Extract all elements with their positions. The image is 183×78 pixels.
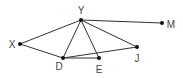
edge-x-d: [20, 44, 63, 58]
labels: YXDEJM: [9, 5, 176, 75]
node-x: [18, 42, 22, 46]
node-y: [79, 18, 83, 22]
node-label-x: X: [9, 39, 16, 50]
node-j: [135, 45, 139, 49]
node-d: [61, 56, 65, 60]
node-m: [160, 21, 164, 25]
edge-y-e: [81, 20, 99, 58]
edge-y-j: [81, 20, 137, 47]
graph-diagram: YXDEJM: [0, 0, 183, 78]
edge-y-m: [81, 20, 162, 23]
node-label-j: J: [135, 53, 140, 64]
node-label-d: D: [55, 61, 62, 72]
node-e: [97, 56, 101, 60]
node-label-y: Y: [78, 5, 85, 16]
edges: [20, 20, 162, 58]
node-label-m: M: [167, 19, 175, 30]
node-label-e: E: [96, 64, 103, 75]
